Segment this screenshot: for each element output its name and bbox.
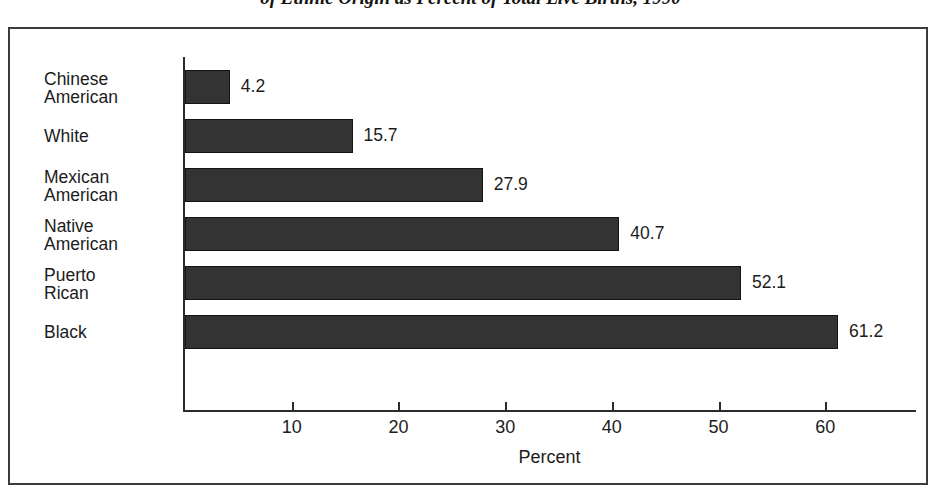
bar-row: Chinese American4.2 <box>10 70 930 104</box>
bar <box>185 168 483 202</box>
bar-row: Black61.2 <box>10 315 930 349</box>
bar-value-label: 61.2 <box>849 321 883 342</box>
bar <box>185 315 838 349</box>
x-tick-label: 10 <box>267 417 317 438</box>
x-tick-mark <box>505 402 507 411</box>
bar-value-label: 52.1 <box>752 272 786 293</box>
bar-category-label: Mexican American <box>44 168 194 204</box>
chart-title: of Ethnic Origin as Percent of Total Liv… <box>0 0 941 9</box>
bar-value-label: 40.7 <box>630 223 664 244</box>
x-tick-mark <box>825 402 827 411</box>
x-tick-label: 30 <box>480 417 530 438</box>
bar-value-label: 27.9 <box>494 174 528 195</box>
bar-row: Puerto Rican52.1 <box>10 266 930 300</box>
x-tick-mark <box>612 402 614 411</box>
bar-category-label: Chinese American <box>44 70 194 106</box>
x-tick-label: 20 <box>373 417 423 438</box>
bar-row: White15.7 <box>10 119 930 153</box>
bar-value-label: 4.2 <box>241 76 265 97</box>
x-tick-mark <box>292 402 294 411</box>
bar <box>185 266 741 300</box>
x-axis-title: Percent <box>183 447 916 468</box>
bar-row: Mexican American27.9 <box>10 168 930 202</box>
bar-row: Native American40.7 <box>10 217 930 251</box>
bar-value-label: 15.7 <box>364 125 398 146</box>
bar <box>185 70 230 104</box>
plot-area: Chinese American4.2White15.7Mexican Amer… <box>10 29 930 487</box>
bar-category-label: White <box>44 127 194 145</box>
bar <box>185 217 619 251</box>
bar-category-label: Puerto Rican <box>44 266 194 302</box>
x-tick-mark <box>719 402 721 411</box>
x-tick-label: 40 <box>587 417 637 438</box>
x-tick-label: 60 <box>800 417 850 438</box>
chart-title-strip: of Ethnic Origin as Percent of Total Liv… <box>0 0 941 22</box>
figure-frame: Chinese American4.2White15.7Mexican Amer… <box>8 27 928 485</box>
x-tick-mark <box>398 402 400 411</box>
bar-category-label: Black <box>44 323 194 341</box>
bar-category-label: Native American <box>44 217 194 253</box>
bar <box>185 119 353 153</box>
x-tick-label: 50 <box>694 417 744 438</box>
